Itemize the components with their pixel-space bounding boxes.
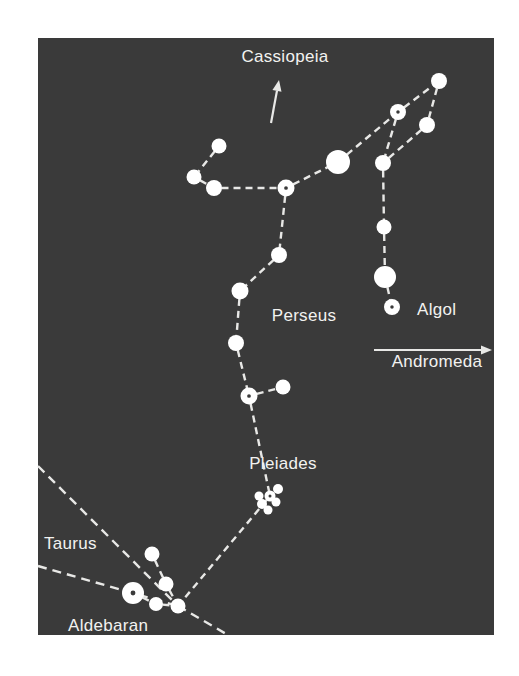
- label-algol: Algol: [417, 300, 456, 319]
- label-andromeda: Andromeda: [392, 352, 483, 371]
- star-marker: [419, 117, 435, 133]
- star-marker: [375, 155, 391, 171]
- star-disc: [149, 597, 163, 611]
- star-disc: [145, 547, 160, 562]
- star-disc: [255, 492, 264, 501]
- star-marker: [264, 506, 273, 515]
- star-chart-figure: CassiopeiaPerseusAlgolAndromedaPleiadesT…: [0, 0, 519, 676]
- star-marker: [278, 180, 295, 197]
- star-disc: [232, 283, 249, 300]
- star-center-dot: [247, 394, 251, 398]
- star-disc: [228, 335, 244, 351]
- star-marker: [228, 335, 244, 351]
- star-disc: [171, 599, 186, 614]
- star-marker: [377, 220, 392, 235]
- star-marker: [255, 492, 264, 501]
- star-disc: [271, 247, 287, 263]
- star-disc: [272, 498, 281, 507]
- star-marker: [272, 498, 281, 507]
- star-disc: [264, 506, 273, 515]
- star-marker: [149, 597, 163, 611]
- star-marker: [374, 266, 396, 288]
- star-marker: [271, 247, 287, 263]
- star-marker: [212, 139, 227, 154]
- star-center-dot: [269, 495, 272, 498]
- star-disc: [377, 220, 392, 235]
- star-marker: [273, 484, 283, 494]
- star-marker: [390, 104, 406, 120]
- star-disc: [431, 73, 447, 89]
- star-marker: [187, 170, 202, 185]
- star-marker: [431, 73, 447, 89]
- constellation-line: [384, 234, 385, 267]
- star-marker: [241, 388, 258, 405]
- star-disc: [159, 577, 174, 592]
- label-aldebaran: Aldebaran: [68, 616, 148, 635]
- star-center-dot: [390, 305, 394, 309]
- star-disc: [374, 266, 396, 288]
- star-marker: [232, 283, 249, 300]
- label-pleiades: Pleiades: [249, 454, 317, 473]
- star-marker: [171, 599, 186, 614]
- star-disc: [273, 484, 283, 494]
- star-disc: [187, 170, 202, 185]
- star-marker: [326, 150, 350, 174]
- star-center-dot: [131, 591, 136, 596]
- star-marker: [206, 180, 222, 196]
- label-perseus: Perseus: [272, 306, 336, 325]
- star-disc: [419, 117, 435, 133]
- star-disc: [276, 380, 291, 395]
- star-marker: [122, 582, 144, 604]
- star-chart-canvas: CassiopeiaPerseusAlgolAndromedaPleiadesT…: [0, 0, 519, 676]
- star-marker: [145, 547, 160, 562]
- star-disc: [206, 180, 222, 196]
- star-disc: [326, 150, 350, 174]
- label-taurus: Taurus: [44, 534, 97, 553]
- star-marker: [159, 577, 174, 592]
- star-center-dot: [284, 186, 288, 190]
- star-disc: [375, 155, 391, 171]
- label-cassiopeia: Cassiopeia: [241, 47, 328, 66]
- star-marker: [276, 380, 291, 395]
- star-center-dot: [396, 110, 400, 114]
- star-marker: [384, 299, 400, 315]
- star-disc: [212, 139, 227, 154]
